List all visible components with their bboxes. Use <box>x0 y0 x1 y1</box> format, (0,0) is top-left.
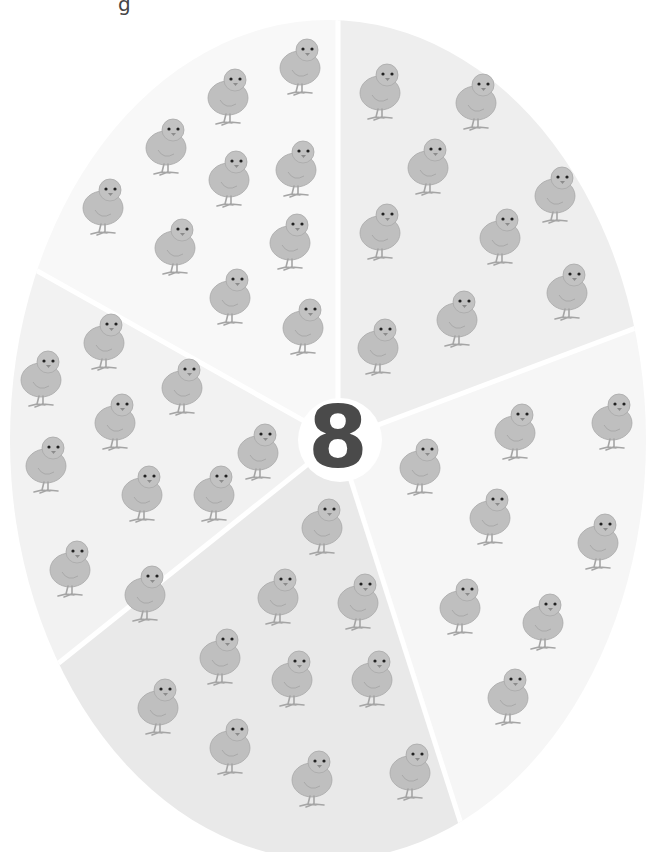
center-number: 8 <box>296 392 380 482</box>
counting-worksheet: g <box>0 0 657 852</box>
